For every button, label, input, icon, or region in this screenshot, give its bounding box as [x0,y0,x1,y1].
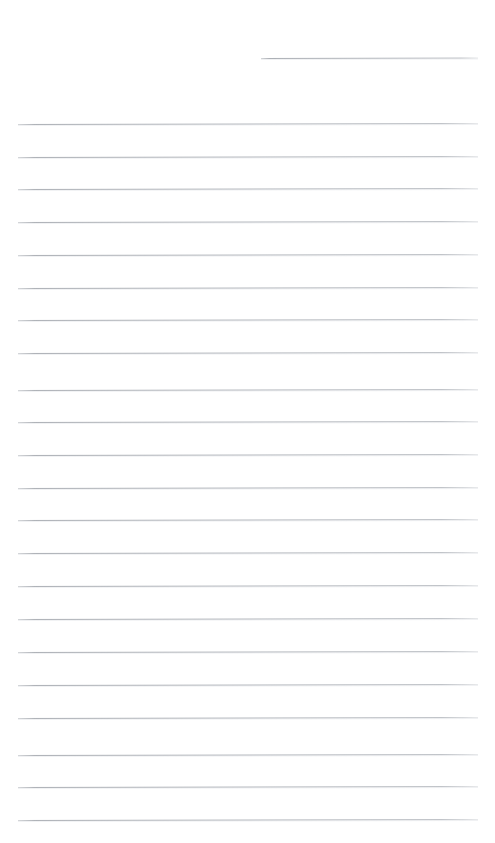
rule-line [18,585,478,587]
rule-line [18,684,478,686]
rule-line [18,618,478,620]
rule-line [18,552,478,554]
rule-line [18,319,478,321]
rule-lines-layer [0,0,495,843]
rule-line [18,754,478,756]
rule-line [18,819,478,821]
rule-line [18,352,478,354]
rule-line [18,389,478,391]
rule-line [18,156,478,158]
rule-line [18,123,478,125]
rule-line [18,717,478,719]
rule-line [18,454,478,456]
rule-line [18,651,478,653]
rule-line [18,254,478,256]
rule-line [18,188,478,190]
ruled-paper-page [0,0,495,843]
rule-line [18,221,478,223]
rule-line [18,487,478,489]
rule-line-partial [261,58,478,59]
rule-line [18,421,478,423]
rule-line [18,519,478,521]
rule-line [18,786,478,788]
rule-line [18,287,478,289]
